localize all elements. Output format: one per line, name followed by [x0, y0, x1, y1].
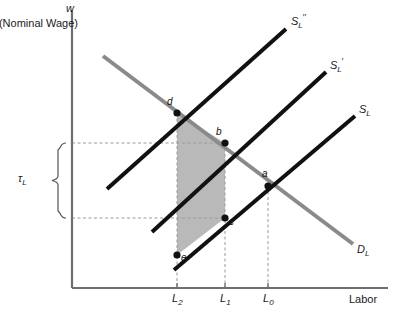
plot-canvas [0, 0, 393, 320]
point-c-label: c [229, 216, 234, 227]
tick-label-L0: L0 [263, 292, 274, 307]
point-a-label: a [262, 168, 268, 179]
labor-market-tax-wedge-figure: w (Nominal Wage) Labor L2 L1 L0 τL SL′′ … [0, 0, 393, 320]
supply-curve-single-prime-label: SL′ [330, 56, 343, 74]
point-b-label: b [216, 126, 222, 137]
point-b-marker [221, 139, 228, 146]
point-e-marker [173, 251, 180, 258]
y-axis-symbol: w [66, 2, 74, 14]
tick-label-L1: L1 [220, 292, 231, 307]
guide-lines [72, 113, 268, 288]
tau-L-label: τL [18, 172, 27, 187]
point-d-label: d [167, 96, 173, 107]
y-axis-caption: (Nominal Wage) [0, 16, 78, 30]
x-axis-label: Labor [349, 293, 377, 305]
demand-curve-label: DL [357, 240, 369, 258]
tau-bracket [52, 143, 66, 218]
tick-label-L2: L2 [172, 292, 183, 307]
supply-curve-double-prime-label: SL′′ [291, 12, 306, 30]
supply-curve-original-label: SL [359, 100, 371, 118]
point-d-marker [173, 109, 180, 116]
point-e-label: e [181, 252, 187, 263]
axis-lines [72, 10, 388, 288]
point-a-marker [264, 182, 271, 189]
point-c-marker [221, 214, 228, 221]
